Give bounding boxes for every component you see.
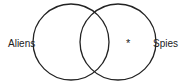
asterisk-marker: * [126,37,130,49]
set-label-spies: Spies [153,38,178,50]
set-circle-aliens [33,4,109,80]
set-label-aliens: Aliens [8,38,35,50]
set-circle-spies [80,4,156,80]
